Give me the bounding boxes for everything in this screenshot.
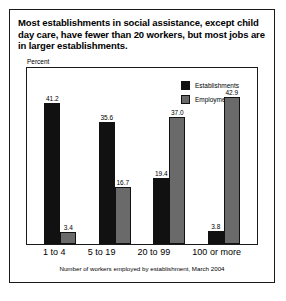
bar-wrap-establishments: 3.8	[208, 231, 224, 244]
bar-establishments	[208, 231, 224, 244]
bar-employment	[224, 97, 240, 244]
category-label: 5 to 19	[88, 247, 116, 257]
bar-group: 41.2 3.4	[44, 103, 76, 244]
bar-group: 35.6 16.7	[99, 122, 131, 244]
bar-wrap-establishments: 41.2	[44, 103, 60, 244]
bar-group: 3.8 42.9	[208, 97, 240, 244]
y-axis-unit-label: Percent	[27, 58, 49, 65]
bar-establishments	[44, 103, 60, 244]
bar-value-label: 42.9	[225, 89, 238, 96]
bar-value-label: 35.6	[100, 114, 113, 121]
bar-wrap-establishments: 35.6	[99, 122, 115, 244]
plot-area: Establishments Employment 41.2 3.4	[26, 67, 258, 245]
bar-wrap-employment: 3.4	[60, 232, 76, 244]
category-label: 100 or more	[192, 247, 241, 257]
bar-employment	[60, 232, 76, 244]
figure-footnote: Number of workers employed by establishm…	[10, 265, 274, 272]
bar-wrap-employment: 42.9	[224, 97, 240, 244]
bar-establishments	[99, 122, 115, 244]
bar-value-label: 19.4	[155, 170, 168, 177]
bar-value-label: 3.8	[211, 223, 220, 230]
category-label: 20 to 99	[138, 247, 171, 257]
bar-wrap-employment: 16.7	[115, 187, 131, 244]
bar-groups: 41.2 3.4 35.6 16.7	[27, 68, 257, 244]
bar-value-label: 41.2	[46, 95, 59, 102]
bar-value-label: 16.7	[116, 179, 129, 186]
bar-establishments	[153, 178, 169, 244]
bar-value-label: 37.0	[171, 109, 184, 116]
bar-value-label: 3.4	[64, 224, 73, 231]
bar-employment	[115, 187, 131, 244]
category-label: 1 to 4	[43, 247, 66, 257]
bar-wrap-establishments: 19.4	[153, 178, 169, 244]
bar-group: 19.4 37.0	[153, 117, 185, 244]
figure-panel: Most establishments in social assistance…	[9, 9, 275, 283]
bar-wrap-employment: 37.0	[169, 117, 185, 244]
bar-employment	[169, 117, 185, 244]
figure-title: Most establishments in social assistance…	[18, 17, 265, 52]
category-axis: 1 to 4 5 to 19 20 to 99 100 or more	[26, 247, 258, 257]
